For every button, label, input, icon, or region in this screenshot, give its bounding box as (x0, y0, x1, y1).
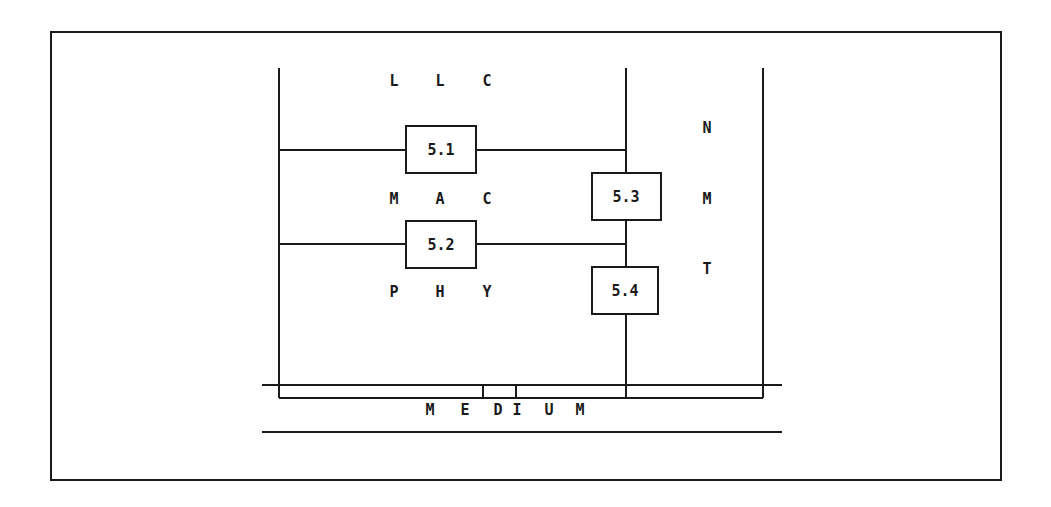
svg-text:T: T (702, 260, 711, 278)
svg-text:I: I (512, 401, 521, 419)
svg-text:C: C (482, 72, 491, 90)
svg-text:5.2: 5.2 (427, 236, 454, 254)
svg-text:5.4: 5.4 (611, 282, 638, 300)
box-5-4: 5.4 (592, 267, 658, 314)
protocol-layer-diagram: 5.1 5.2 5.3 5.4 L L C M A C P H Y N M T … (0, 0, 1051, 507)
svg-text:M: M (425, 401, 434, 419)
svg-text:H: H (435, 283, 444, 301)
svg-text:P: P (389, 283, 398, 301)
svg-text:M: M (389, 190, 398, 208)
svg-text:M: M (702, 190, 711, 208)
nmt-label: N M T (702, 119, 711, 278)
llc-label: L L C (389, 72, 491, 90)
svg-text:E: E (460, 401, 469, 419)
outer-frame (51, 32, 1001, 480)
svg-text:L: L (435, 72, 444, 90)
box-5-3: 5.3 (592, 173, 661, 220)
phy-label: P H Y (389, 283, 491, 301)
svg-text:M: M (575, 401, 584, 419)
svg-text:L: L (389, 72, 398, 90)
svg-text:C: C (482, 190, 491, 208)
svg-text:D: D (493, 401, 502, 419)
box-5-1: 5.1 (406, 126, 476, 173)
svg-text:Y: Y (482, 283, 491, 301)
medium-label: M E D I U M (425, 401, 584, 419)
svg-text:U: U (544, 401, 553, 419)
svg-text:5.3: 5.3 (612, 188, 639, 206)
box-5-2: 5.2 (406, 221, 476, 268)
svg-text:A: A (435, 190, 444, 208)
mac-label: M A C (389, 190, 491, 208)
svg-text:N: N (702, 119, 711, 137)
svg-text:5.1: 5.1 (427, 141, 454, 159)
